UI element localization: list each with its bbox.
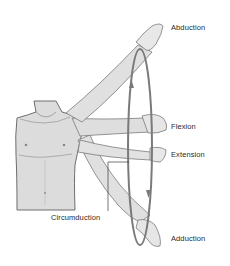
label-extension: Extension [171, 150, 205, 159]
nipple-left [25, 144, 28, 147]
shoulder-movement-illustration [0, 0, 230, 266]
label-circumduction: Circumduction [51, 213, 100, 222]
nipple-right [63, 144, 66, 147]
arrow-up-icon [129, 80, 134, 88]
label-adduction: Adduction [171, 234, 205, 243]
label-flexion: Flexion [171, 122, 196, 131]
label-abduction: Abduction [171, 23, 205, 32]
